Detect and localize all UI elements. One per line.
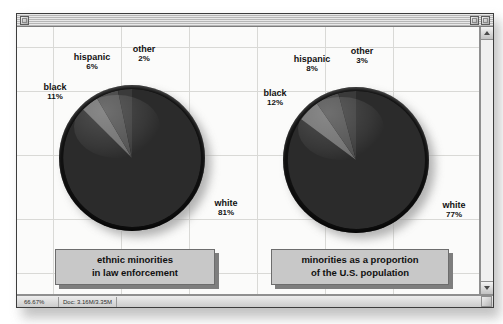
pie-face-right — [287, 91, 425, 229]
pie-svg-left — [63, 89, 201, 227]
pie-svg-right — [287, 91, 425, 229]
artwork-canvas[interactable]: black 11% hispanic 6% other 2% white 81% — [17, 27, 480, 295]
caption-right-wrap: minorities as a proportion of the U.S. p… — [271, 249, 449, 285]
pie-chart-right[interactable] — [283, 87, 429, 233]
callout-black-right: black 12% — [253, 89, 297, 107]
caption-left-text: ethnic minorities in law enforcement — [92, 254, 178, 279]
document-window: black 11% hispanic 6% other 2% white 81% — [16, 13, 494, 308]
caption-right-box[interactable]: minorities as a proportion of the U.S. p… — [271, 249, 449, 285]
chart-left-group: black 11% hispanic 6% other 2% white 81% — [17, 27, 249, 295]
window-title-bar[interactable] — [17, 14, 493, 27]
pie-chart-left[interactable] — [59, 85, 205, 231]
scroll-down-arrow-icon[interactable] — [481, 281, 493, 294]
zoom-box-icon[interactable] — [470, 16, 479, 25]
pie-face-left — [63, 89, 201, 227]
callout-hispanic-right: hispanic 8% — [285, 55, 339, 73]
callout-white-right: white 77% — [435, 201, 473, 219]
zoom-level-readout[interactable]: 66.67% — [20, 297, 59, 307]
callout-black-left: black 11% — [33, 83, 77, 101]
collapse-box-icon[interactable] — [481, 16, 490, 25]
callout-other-right: other 3% — [343, 47, 381, 65]
callout-other-left: other 2% — [125, 45, 163, 63]
caption-right-text: minorities as a proportion of the U.S. p… — [301, 254, 418, 279]
caption-left-wrap: ethnic minorities in law enforcement — [55, 249, 215, 285]
vertical-scrollbar[interactable] — [480, 27, 493, 295]
document-size-readout[interactable]: Doc: 3.16M/3.35M — [59, 297, 117, 307]
close-box-icon[interactable] — [20, 16, 29, 25]
window-body: black 11% hispanic 6% other 2% white 81% — [17, 27, 493, 295]
status-bar: 66.67% Doc: 3.16M/3.35M — [17, 295, 493, 307]
chart-right-group: black 12% hispanic 8% other 3% white 77% — [239, 27, 471, 295]
resize-grow-box-icon[interactable] — [481, 296, 492, 307]
scrollbar-track[interactable] — [481, 40, 493, 281]
callout-hispanic-left: hispanic 6% — [65, 53, 119, 71]
caption-left-box[interactable]: ethnic minorities in law enforcement — [55, 249, 215, 285]
scroll-up-arrow-icon[interactable] — [481, 27, 493, 40]
